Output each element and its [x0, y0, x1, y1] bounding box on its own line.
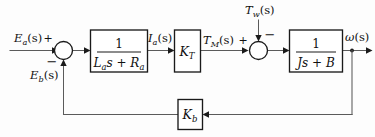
- mechanical-block-numerator: 1: [312, 37, 320, 51]
- input-signal-path: [10, 47, 59, 53]
- voltage-summer-minus-sign: −: [47, 54, 58, 69]
- torque-constant-block[interactable]: KT: [175, 30, 201, 72]
- mechanical-transfer-function-block[interactable]: 1 Js + B: [290, 30, 343, 72]
- motor-torque-path: [200, 47, 249, 53]
- block-diagram-canvas: 1 Las + Ra KT 1 Js + B Kb +: [0, 0, 375, 137]
- armature-current-label: Ia(s): [147, 31, 172, 47]
- electrical-block-numerator: 1: [115, 37, 123, 51]
- back-emf-constant-block[interactable]: Kb: [178, 100, 203, 130]
- error-signal-path: [72, 47, 91, 53]
- armature-current-path: [147, 47, 175, 53]
- motor-torque-label: TM(s): [203, 33, 234, 49]
- disturbance-torque-path: [255, 20, 261, 42]
- disturbance-torque-label: Tw(s): [245, 3, 275, 19]
- net-torque-path: [268, 47, 290, 53]
- torque-summer-plus-sign: +: [238, 34, 247, 47]
- input-voltage-label: Ea(s): [13, 31, 42, 47]
- block-diagram-svg: 1 Las + Ra KT 1 Js + B Kb +: [0, 0, 375, 137]
- electrical-block-denominator: Las + Ra: [93, 56, 145, 72]
- mechanical-block-denominator: Js + B: [294, 56, 335, 70]
- output-speed-label: ω(s): [345, 30, 369, 44]
- back-emf-voltage-label: Eb(s): [29, 68, 59, 84]
- torque-summing-junction[interactable]: [250, 42, 268, 60]
- torque-summer-minus-sign: −: [265, 27, 276, 42]
- electrical-transfer-function-block[interactable]: 1 Las + Ra: [91, 30, 148, 72]
- voltage-summer-plus-sign: +: [43, 32, 52, 45]
- output-signal-path: [343, 47, 373, 53]
